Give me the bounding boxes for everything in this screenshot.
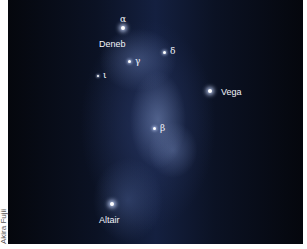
label-deneb: Deneb xyxy=(99,39,126,49)
star-iota xyxy=(97,75,99,77)
star-beta xyxy=(153,127,156,130)
label-iota: ι xyxy=(103,70,107,80)
label-beta: β xyxy=(160,123,165,133)
star-gamma xyxy=(128,60,131,63)
label-altair: Altair xyxy=(99,215,120,225)
label-delta: δ xyxy=(170,46,175,56)
background-stars xyxy=(8,0,303,244)
star-deneb xyxy=(121,26,125,30)
label-vega: Vega xyxy=(221,87,242,97)
star-altair xyxy=(110,202,114,206)
star-delta xyxy=(163,51,166,54)
star-vega xyxy=(208,89,212,93)
label-alpha: α xyxy=(120,14,126,24)
label-gamma: γ xyxy=(135,56,140,66)
milky-way-photo: α Deneb γ δ ι Vega β Altair xyxy=(8,0,303,244)
photo-credit: Akira Fujii xyxy=(0,202,8,249)
